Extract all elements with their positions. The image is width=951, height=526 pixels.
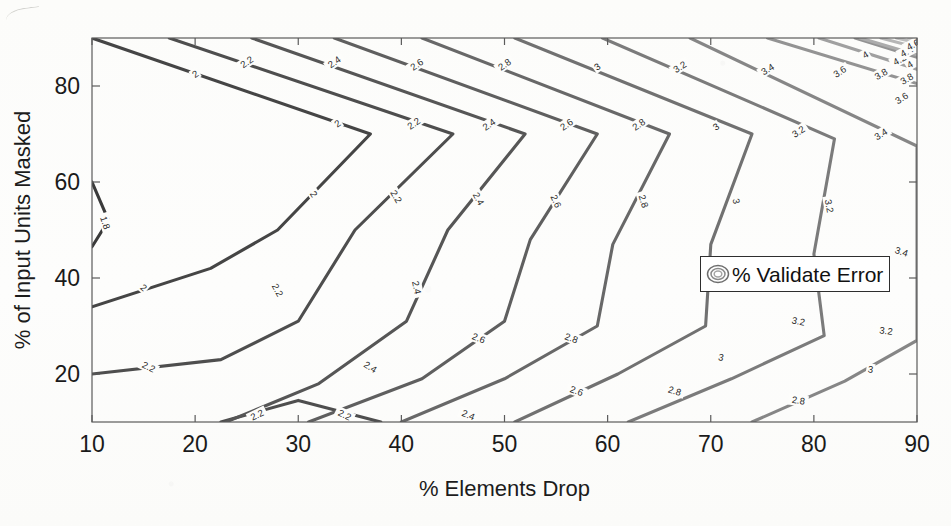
legend-label: % Validate Error xyxy=(732,264,883,285)
contour-label: 2.8 xyxy=(791,394,806,407)
y-tick-label: 60 xyxy=(54,169,80,195)
contour-rings-icon xyxy=(705,261,731,287)
x-tick-label: 40 xyxy=(389,431,415,457)
x-tick-label: 80 xyxy=(801,431,827,457)
x-tick-label: 90 xyxy=(904,431,930,457)
contour-line-2 xyxy=(92,38,370,307)
contour-label: 2.4 xyxy=(410,280,424,295)
x-tick-label: 10 xyxy=(79,431,105,457)
contour-line-2-6 xyxy=(309,38,598,422)
axes-frame xyxy=(92,38,917,422)
contour-line-3-4 xyxy=(690,38,917,422)
contour-label: 3.2 xyxy=(879,324,894,337)
contour-line-3 xyxy=(515,38,752,422)
contour-label: 3.2 xyxy=(823,199,836,214)
x-tick-label: 30 xyxy=(285,431,311,457)
x-tick-label: 70 xyxy=(698,431,724,457)
x-axis-title: % Elements Drop xyxy=(419,476,590,501)
legend[interactable]: % Validate Error xyxy=(700,256,890,292)
x-tick-label: 60 xyxy=(595,431,621,457)
y-tick-label: 80 xyxy=(54,73,80,99)
contour-label: 3.2 xyxy=(791,314,806,328)
y-tick-label: 40 xyxy=(54,265,80,291)
contour-labels: 1.822222.22.22.22.22.22.22.22.42.42.42.4… xyxy=(97,35,924,424)
x-tick-label: 20 xyxy=(182,431,208,457)
x-tick-label: 50 xyxy=(492,431,518,457)
y-tick-label: 20 xyxy=(54,361,80,387)
y-axis-title: % of Input Units Masked xyxy=(10,111,35,349)
contour-lines xyxy=(92,38,917,422)
contour-figure: 1.822222.22.22.22.22.22.22.22.42.42.42.4… xyxy=(0,0,951,526)
